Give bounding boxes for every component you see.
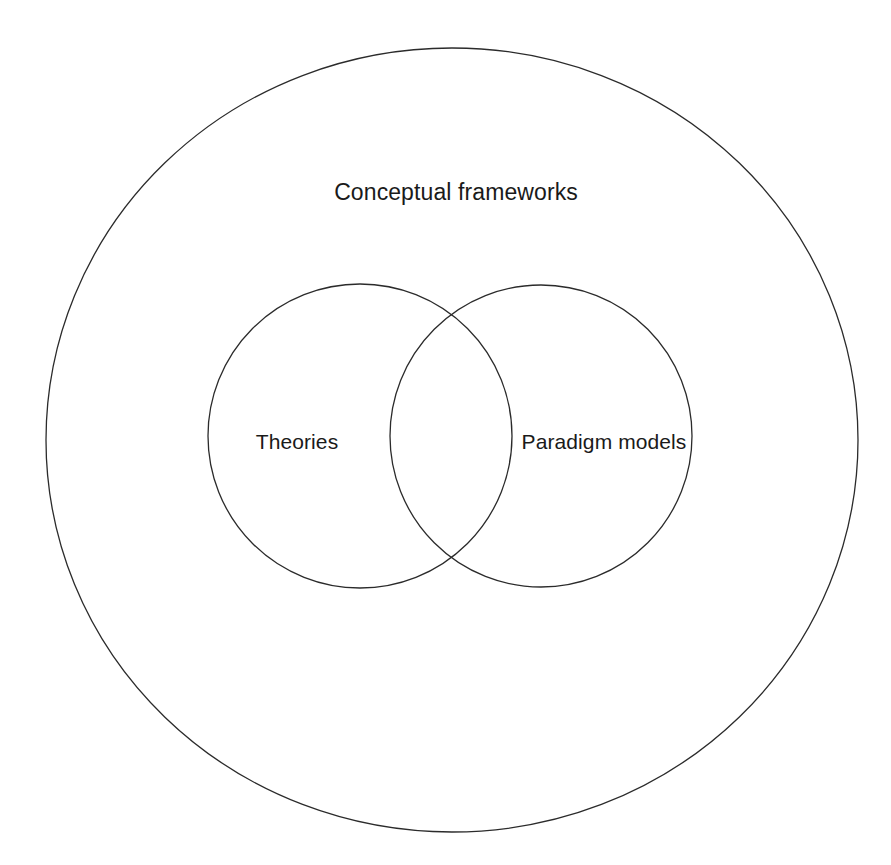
inner-circle-theories <box>208 284 512 588</box>
venn-diagram-canvas: Conceptual frameworks Theories Paradigm … <box>0 0 891 865</box>
outer-circle-conceptual-frameworks <box>46 48 858 832</box>
inner-circle-label-paradigm-models: Paradigm models <box>522 430 687 453</box>
inner-circle-label-theories: Theories <box>256 430 339 453</box>
outer-circle-label: Conceptual frameworks <box>334 179 578 205</box>
venn-diagram-svg: Conceptual frameworks Theories Paradigm … <box>0 0 891 865</box>
